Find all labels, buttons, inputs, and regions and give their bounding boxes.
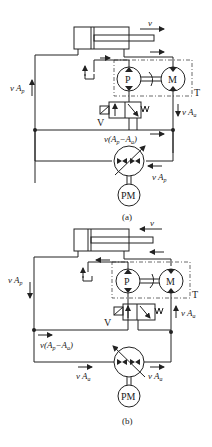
bottom-right-a (146, 130, 173, 161)
svg-text:v Aa: v Aa (182, 107, 197, 118)
flow-label-pump-a: v Ap (148, 166, 167, 183)
svg-text:v Ap: v Ap (10, 83, 25, 94)
flow-label-left-a: v Ap (10, 80, 32, 96)
line-cap-side-a (35, 49, 78, 183)
line-pump-tank-a (94, 60, 129, 72)
panel-b: v T P M (8, 218, 198, 426)
svg-text:v Aa: v Aa (148, 371, 163, 382)
pump-p-b: P (116, 269, 140, 293)
transformer-label-b: T (192, 289, 198, 300)
hydraulic-circuit-diagram: v T P M (0, 0, 212, 447)
velocity-arrow-a: v (140, 18, 164, 29)
svg-text:v Ap: v Ap (152, 172, 167, 183)
svg-text:P: P (125, 74, 131, 85)
pump-p-a: P (117, 67, 141, 91)
flow-label-left-b: v Ap (8, 275, 30, 298)
svg-text:v Ap: v Ap (8, 275, 23, 286)
tank-a (85, 74, 94, 79)
flow-label-mid-b: v(Ap−Aa) (38, 335, 73, 351)
svg-text:M: M (166, 276, 175, 287)
svg-text:PM: PM (121, 190, 136, 201)
prime-mover-b: PM (118, 385, 140, 407)
flow-label-right-b: v Aa (176, 306, 196, 319)
svg-text:v Aa: v Aa (76, 371, 91, 382)
svg-text:v(Ap−Aa): v(Ap−Aa) (104, 134, 137, 145)
svg-text:v: v (148, 18, 152, 28)
variable-pump-b (113, 346, 145, 377)
valve-v-a: V (97, 102, 149, 128)
svg-text:v Aa: v Aa (181, 308, 196, 319)
svg-text:v(Ap−Aa): v(Ap−Aa) (40, 340, 73, 351)
svg-text:V: V (104, 317, 112, 328)
hydraulic-cylinder-b (74, 229, 153, 251)
caption-a: (a) (122, 212, 132, 222)
prime-mover-a: PM (118, 184, 140, 206)
transformer-label-a: T (194, 87, 200, 98)
flow-label-pump-left-b: v Aa (76, 367, 92, 382)
variable-pump-a (114, 146, 145, 176)
velocity-arrow-b: v (140, 218, 162, 229)
svg-text:M: M (168, 74, 177, 85)
variable-arrow-b (150, 274, 154, 288)
line-rod-side-a (124, 49, 173, 68)
panel-a: v T P M (10, 18, 200, 222)
svg-text:P: P (124, 276, 130, 287)
line-rod-side-b (124, 251, 171, 266)
valve-v-b: V (104, 304, 163, 328)
svg-text:PM: PM (121, 391, 136, 402)
hydraulic-cylinder-a (74, 27, 154, 49)
tank-b (83, 276, 92, 281)
line-cap-side-b (34, 251, 78, 330)
flow-label-right-a: v Aa (178, 104, 197, 118)
svg-text:v: v (150, 218, 154, 228)
flow-label-mid-a: v(Ap−Aa) (104, 134, 164, 145)
variable-arrow-a (149, 72, 153, 86)
motor-m-b: M (159, 269, 183, 293)
svg-text:V: V (97, 117, 105, 128)
bottom-left-a (35, 130, 112, 161)
flow-label-pump-right-b: v Aa (148, 367, 164, 382)
caption-b: (b) (122, 416, 133, 426)
motor-m-a: M (161, 67, 185, 91)
